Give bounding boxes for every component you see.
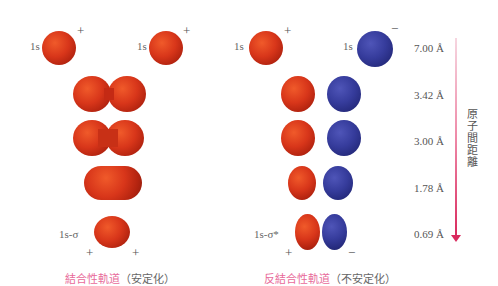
atom-label-1s-left: 1s — [30, 40, 40, 52]
atom-1s-orbital-left — [42, 31, 76, 65]
atom-label-1s-left: 1s — [234, 40, 244, 52]
antibonding-lobe-positive-3-42 — [281, 76, 315, 112]
mo-sign-plus: + — [285, 246, 292, 259]
mo-sign-minus: − — [348, 246, 355, 259]
bonding-caption: 結合性軌道（安定化） — [65, 270, 175, 286]
distance-label: 1.78 Å — [414, 182, 444, 194]
antibonding-caption: 反結合性軌道（不安定化） — [264, 270, 396, 286]
distance-label: 3.00 Å — [414, 135, 444, 147]
phase-sign-right: + — [183, 24, 190, 37]
phase-sign-minus: − — [391, 22, 398, 35]
antibonding-lobe-negative-3-00 — [327, 120, 361, 156]
distance-label: 0.69 Å — [414, 228, 444, 240]
bonding-orbital-0-69 — [94, 216, 130, 248]
distance-label: 3.42 Å — [414, 89, 444, 101]
antibonding-lobe-positive-3-00 — [281, 120, 315, 156]
phase-sign-left: + — [77, 24, 84, 37]
antibonding-lobe-positive-0-69 — [295, 214, 320, 250]
arrow-down-icon — [451, 235, 461, 242]
antibonding-lobe-negative-3-42 — [327, 76, 361, 112]
mo-sign-left: + — [86, 246, 93, 259]
atom-label-1s-right: 1s — [343, 40, 353, 52]
antibonding-lobe-negative-1-78 — [323, 166, 353, 200]
axis-label-vertical: 原子間距離 — [466, 108, 478, 168]
antibonding-lobe-positive-1-78 — [288, 166, 316, 200]
distance-arrow-line — [455, 38, 457, 236]
mo-label-1s-sigma-star: 1s-σ* — [254, 228, 279, 240]
atom-label-1s-right: 1s — [137, 40, 147, 52]
mo-label-1s-sigma: 1s-σ — [59, 228, 78, 240]
bonding-orbital-1-78 — [84, 166, 142, 200]
mo-sign-right: + — [132, 246, 139, 259]
atom-1s-orbital-positive — [249, 31, 283, 65]
distance-label: 7.00 Å — [414, 42, 444, 54]
phase-sign-plus: + — [284, 24, 291, 37]
atom-1s-orbital-negative — [357, 31, 393, 67]
atom-1s-orbital-right — [149, 31, 183, 65]
antibonding-lobe-negative-0-69 — [322, 214, 347, 250]
